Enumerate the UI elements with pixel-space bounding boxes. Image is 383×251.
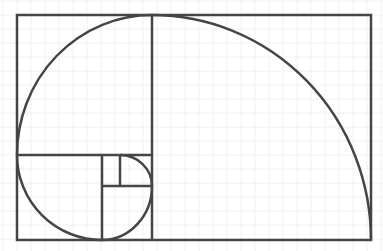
golden-spiral-diagram [0, 0, 383, 251]
spiral-svg [0, 0, 383, 251]
background-grid [0, 0, 383, 251]
